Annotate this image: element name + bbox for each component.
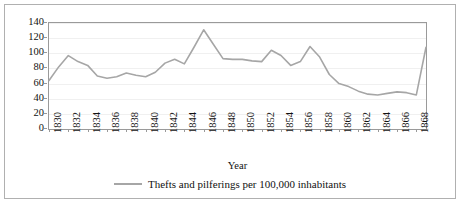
- y-axis-tick-mark: [44, 22, 47, 23]
- x-axis-tick-mark: [262, 129, 263, 132]
- series-polyline: [49, 30, 426, 95]
- x-axis-tick-mark: [397, 129, 398, 132]
- chart-legend: Thefts and pilferings per 100,000 inhabi…: [0, 178, 460, 190]
- legend-label: Thefts and pilferings per 100,000 inhabi…: [148, 178, 346, 190]
- x-axis-tick-mark: [126, 129, 127, 132]
- x-axis-tick-label: 1832: [72, 112, 83, 133]
- x-axis-tick-label: 1858: [324, 112, 335, 133]
- x-axis-tick-mark: [68, 129, 69, 132]
- x-axis-tick-label: 1842: [169, 112, 180, 133]
- x-axis-tick-mark: [339, 129, 340, 132]
- x-axis-tick-mark: [242, 129, 243, 132]
- x-axis-tick-mark: [88, 129, 89, 132]
- y-axis-tick-mark: [44, 67, 47, 68]
- x-axis-tick-mark: [184, 129, 185, 132]
- x-axis-tick-label: 1848: [227, 112, 238, 133]
- x-axis-tick-mark: [107, 129, 108, 132]
- x-axis-tick-label: 1844: [188, 112, 199, 133]
- y-axis-tick-labels: 020406080100120140: [0, 22, 44, 128]
- legend-line-swatch-icon: [114, 183, 142, 185]
- y-axis-tick-label: 80: [0, 62, 44, 73]
- y-axis-tick-mark: [44, 113, 47, 114]
- x-axis-tick-mark: [165, 129, 166, 132]
- y-axis-tick-mark: [44, 52, 47, 53]
- x-axis-tick-label: 1854: [285, 112, 296, 133]
- y-axis-tick-label: 60: [0, 78, 44, 89]
- y-axis-tick-mark: [44, 83, 47, 84]
- x-axis-tick-mark: [300, 129, 301, 132]
- x-axis-tick-label: 1868: [420, 112, 431, 133]
- x-axis-tick-label: 1860: [343, 112, 354, 133]
- x-axis-tick-label: 1852: [266, 112, 277, 133]
- y-axis-tick-label: 100: [0, 47, 44, 58]
- x-axis-tick-mark: [146, 129, 147, 132]
- y-axis-tick-label: 0: [0, 123, 44, 134]
- x-axis-title: Year: [48, 160, 427, 171]
- x-axis-tick-label: 1850: [246, 112, 257, 133]
- x-axis-tick-mark: [223, 129, 224, 132]
- x-axis-tick-label: 1856: [304, 112, 315, 133]
- x-axis-tick-label: 1838: [130, 112, 141, 133]
- x-axis-tick-mark: [320, 129, 321, 132]
- x-axis-tick-label: 1862: [362, 112, 373, 133]
- x-axis-tick-label: 1866: [401, 112, 412, 133]
- x-axis-tick-label: 1836: [111, 112, 122, 133]
- x-axis-tick-mark: [416, 129, 417, 132]
- y-axis-tick-label: 20: [0, 108, 44, 119]
- x-axis-tick-label: 1830: [53, 112, 64, 133]
- x-axis-tick-label: 1840: [150, 112, 161, 133]
- y-axis-tick-label: 140: [0, 17, 44, 28]
- y-axis-tick-label: 40: [0, 93, 44, 104]
- x-axis-tick-mark: [204, 129, 205, 132]
- x-axis-tick-mark: [378, 129, 379, 132]
- x-axis-tick-label: 1834: [92, 112, 103, 133]
- x-axis-tick-label: 1864: [382, 112, 393, 133]
- x-axis-tick-label: 1846: [208, 112, 219, 133]
- y-axis-tick-label: 120: [0, 32, 44, 43]
- x-axis-tick-mark: [49, 129, 50, 132]
- y-axis-tick-mark: [44, 98, 47, 99]
- y-axis-tick-mark: [44, 37, 47, 38]
- x-axis-tick-mark: [281, 129, 282, 132]
- chart-figure: Crimes per 100,000 020406080100120140 18…: [0, 0, 460, 203]
- y-axis-tick-mark: [44, 128, 47, 129]
- x-axis-tick-mark: [358, 129, 359, 132]
